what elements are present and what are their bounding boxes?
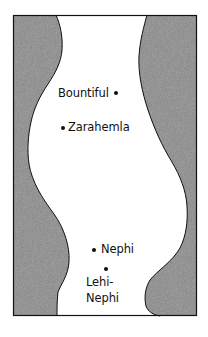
city-dot-zarahemla [61, 126, 65, 130]
label-zarahemla: Zarahemla [68, 122, 130, 134]
city-dot-nephi [92, 248, 96, 252]
city-dot-bountiful [114, 91, 118, 95]
label-bountiful: Bountiful [58, 88, 109, 100]
map-container: Bountiful Zarahemla Nephi Lehi- Nephi [0, 0, 208, 337]
label-nephi: Nephi [101, 244, 134, 256]
city-dot-lehi-nephi [104, 267, 108, 271]
label-lehi-nephi-line1: Lehi- [86, 277, 113, 289]
label-lehi-nephi-line2: Nephi [86, 293, 119, 305]
